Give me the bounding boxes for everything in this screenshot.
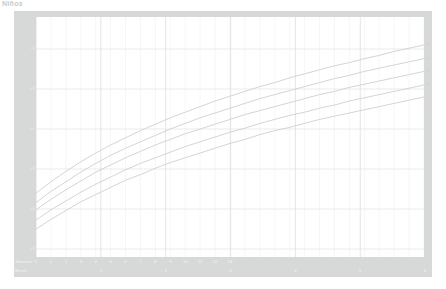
x-axis-month-tick-label: 3: [229, 266, 231, 275]
percentile-curves: [36, 17, 424, 257]
percentile-label: 85: [425, 56, 430, 60]
x-axis-week-tick-label: 4: [95, 257, 97, 266]
x-axis-month-tick-label: 4: [294, 266, 296, 275]
x-axis-month-tick-label: 1: [100, 266, 102, 275]
page-title: Niños: [2, 0, 23, 7]
y-axis-tick-label: 70: [21, 47, 35, 51]
x-axis-month-tick-label: 5: [359, 266, 361, 275]
x-axis-week-tick-label: 8: [154, 257, 156, 266]
x-axis-months-row: Meses 123456: [36, 266, 424, 275]
y-axis-tick-label: 50: [21, 207, 35, 211]
x-axis-week-tick-label: 10: [183, 257, 188, 266]
percentile-labels: 978550153: [424, 17, 440, 257]
x-axis-week-tick-label: 2: [65, 257, 67, 266]
percentile-label: 97: [425, 43, 430, 47]
y-axis-tick-label: 45: [21, 247, 35, 251]
x-axis-week-tick-label: 0: [35, 257, 37, 266]
x-axis-month-tick-label: 2: [165, 266, 167, 275]
x-axis-week-tick-label: 7: [139, 257, 141, 266]
percentile-curve: [36, 71, 424, 209]
y-axis-tick-labels: 455055606570: [18, 17, 35, 257]
x-axis-week-tick-label: 9: [169, 257, 171, 266]
plot-area: [36, 17, 424, 257]
weeks-row-label: Semanas: [15, 257, 35, 266]
x-axis-week-tick-label: 11: [198, 257, 202, 266]
percentile-label: 50: [425, 69, 430, 73]
percentile-label: 3: [425, 95, 427, 99]
x-axis-week-tick-label: 1: [50, 257, 52, 266]
x-axis-week-tick-label: 3: [80, 257, 82, 266]
x-axis-title: Edad (en semanas o meses cumplidos): [36, 277, 424, 284]
x-axis-week-tick-label: 13: [228, 257, 233, 266]
y-axis-tick-label: 65: [21, 87, 35, 91]
percentile-curve: [36, 97, 424, 229]
growth-chart-frame: Longitud (cm) 455055606570 978550153 Sem…: [14, 11, 432, 277]
x-axis-month-tick-label: 6: [424, 266, 426, 275]
percentile-label: 15: [425, 83, 430, 87]
y-axis-tick-label: 60: [21, 127, 35, 131]
months-row-label: Meses: [15, 266, 35, 275]
y-axis-tick-label: 55: [21, 167, 35, 171]
percentile-curve: [36, 59, 424, 203]
percentile-curve: [36, 85, 424, 220]
x-axis-week-tick-label: 12: [213, 257, 218, 266]
x-axis-week-tick-label: 6: [124, 257, 126, 266]
x-axis-weeks-row: Semanas 012345678910111213: [36, 257, 424, 266]
x-axis: Semanas 012345678910111213 Meses 123456: [36, 257, 424, 277]
x-axis-week-tick-label: 5: [109, 257, 111, 266]
